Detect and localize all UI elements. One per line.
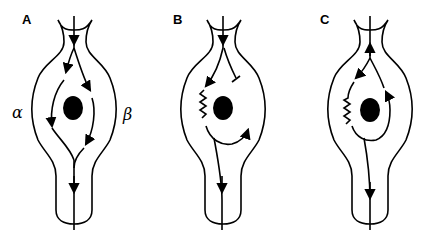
alpha-label: α — [12, 103, 23, 122]
panel-label-b: B — [173, 12, 182, 27]
panel-label-c: C — [320, 12, 330, 27]
beta-label: β — [122, 105, 132, 124]
panel-c: C — [320, 12, 412, 230]
wavy-line-b — [200, 90, 206, 118]
nucleus-a — [63, 96, 83, 120]
panel-a: A α β — [12, 12, 132, 230]
nucleus-c — [360, 98, 380, 122]
panel-b: B — [173, 12, 265, 230]
panel-label-a: A — [22, 12, 32, 27]
nucleus-b — [213, 96, 233, 120]
wavy-line-c — [344, 82, 354, 124]
figure: A α β B C — [0, 0, 425, 240]
